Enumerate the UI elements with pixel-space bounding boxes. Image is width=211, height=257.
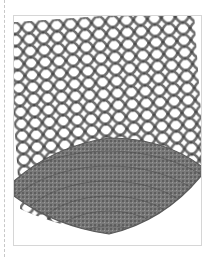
crochet-bag-illustration [14,16,201,245]
dashed-guide-line [4,0,5,257]
image-frame [13,15,202,246]
